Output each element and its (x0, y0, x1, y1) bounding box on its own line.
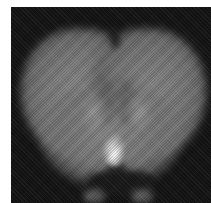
signal-hotspot (103, 135, 125, 167)
dorsal-midline-notch (110, 27, 120, 49)
figure-caption: •••• • •• •••• (10, 0, 66, 3)
left-striatum (81, 92, 111, 132)
left-ventral-lobe (83, 189, 105, 203)
right-striatum (123, 92, 153, 132)
brain-scan-image (11, 7, 211, 203)
right-ventral-lobe (131, 189, 153, 203)
